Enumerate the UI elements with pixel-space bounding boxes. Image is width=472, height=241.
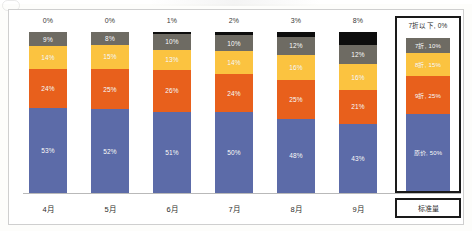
bar-stack: 8% 15% 25% 52%: [91, 32, 129, 193]
segment-8折[interactable]: 8折, 15%: [406, 53, 450, 76]
bar-top-label: 1%: [147, 17, 197, 24]
segment-8折[interactable]: 14%: [29, 46, 67, 69]
bar-column-7月[interactable]: 2% 10% 14% 24% 50%: [209, 16, 259, 193]
segment-原价[interactable]: 原价, 50%: [406, 114, 450, 191]
x-axis-label-5月: 5月: [85, 203, 135, 214]
segment-7折[interactable]: 10%: [153, 34, 191, 50]
segment-原价[interactable]: 50%: [215, 112, 253, 193]
bar-stack: 12% 16% 25% 48%: [277, 32, 315, 193]
segment-原价[interactable]: 51%: [153, 112, 191, 193]
segment-7折[interactable]: 8%: [91, 32, 129, 45]
segment-原价[interactable]: 52%: [91, 109, 129, 193]
bar-column-9月[interactable]: 8% 12% 16% 21% 43%: [333, 16, 383, 193]
x-axis-label-标准量: 标准量: [395, 198, 461, 218]
page-edge-bottom: [0, 231, 472, 241]
segment-7折[interactable]: 10%: [215, 35, 253, 51]
bar-top-label: 0%: [23, 17, 73, 24]
bar-top-label-7折以下: 7折以下, 0%: [397, 20, 459, 30]
segment-9折[interactable]: 24%: [29, 69, 67, 108]
segment-9折[interactable]: 24%: [215, 74, 253, 113]
bar-top-label: 0%: [85, 17, 135, 24]
bar-stack: 10% 13% 26% 51%: [153, 32, 191, 193]
segment-9折[interactable]: 21%: [339, 90, 377, 124]
segment-8折[interactable]: 14%: [215, 51, 253, 74]
x-axis-label-7月: 7月: [209, 203, 259, 214]
x-axis-label-6月: 6月: [147, 203, 197, 214]
x-axis-labels: 4月 5月 6月 7月 8月 9月 标准量: [23, 196, 461, 220]
segment-7折[interactable]: 12%: [277, 37, 315, 56]
bar-column-8月[interactable]: 3% 12% 16% 25% 48%: [271, 16, 321, 193]
x-axis-label-9月: 9月: [333, 203, 383, 214]
segment-7折[interactable]: 12%: [339, 45, 377, 64]
segment-9折[interactable]: 25%: [277, 80, 315, 119]
bar-stack: 9% 14% 24% 53%: [29, 32, 67, 193]
bar-top-label: 2%: [209, 17, 259, 24]
segment-8折[interactable]: 15%: [91, 45, 129, 69]
bar-stack: 10% 14% 24% 50%: [215, 32, 253, 193]
segment-9折[interactable]: 25%: [91, 69, 129, 109]
bar-columns: 0% 9% 14% 24% 53% 0% 8% 15% 25% 52%: [23, 16, 461, 193]
segment-8折[interactable]: 16%: [339, 64, 377, 90]
segment-原价[interactable]: 53%: [29, 108, 67, 193]
bar-column-标准量[interactable]: 7折以下, 0% 7折, 10% 8折, 15% 9折, 25% 原价, 50%: [395, 16, 461, 193]
segment-9折[interactable]: 9折, 25%: [406, 76, 450, 114]
bar-column-4月[interactable]: 0% 9% 14% 24% 53%: [23, 16, 73, 193]
bar-stack: 7折, 10% 8折, 15% 9折, 25% 原价, 50%: [406, 38, 450, 191]
segment-8折[interactable]: 16%: [277, 55, 315, 80]
bar-column-5月[interactable]: 0% 8% 15% 25% 52%: [85, 16, 135, 193]
x-axis-label-8月: 8月: [271, 203, 321, 214]
segment-原价[interactable]: 48%: [277, 119, 315, 193]
segment-7折[interactable]: 7折, 10%: [406, 38, 450, 53]
segment-7折以下[interactable]: [339, 32, 377, 45]
bar-column-6月[interactable]: 1% 10% 13% 26% 51%: [147, 16, 197, 193]
x-axis-label-4月: 4月: [23, 203, 73, 214]
segment-9折[interactable]: 26%: [153, 70, 191, 111]
segment-7折[interactable]: 9%: [29, 32, 67, 46]
bar-top-label: 8%: [333, 17, 383, 24]
segment-8折[interactable]: 13%: [153, 50, 191, 71]
x-axis-line: [23, 193, 461, 194]
chart-frame: 0% 9% 14% 24% 53% 0% 8% 15% 25% 52%: [8, 9, 464, 225]
bar-stack: 12% 16% 21% 43%: [339, 32, 377, 193]
bar-top-label: 3%: [271, 17, 321, 24]
scan-artifact-top-smudge: [150, 0, 320, 6]
screenshot-root: 0% 9% 14% 24% 53% 0% 8% 15% 25% 52%: [0, 0, 472, 241]
segment-原价[interactable]: 43%: [339, 124, 377, 193]
